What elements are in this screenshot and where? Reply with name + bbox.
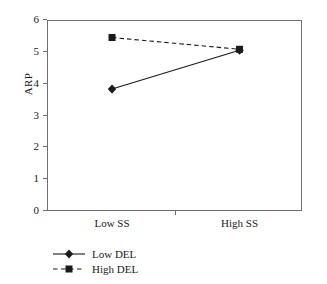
y-tick-label: 1 bbox=[34, 171, 40, 185]
y-axis-title: ARP bbox=[22, 39, 34, 129]
y-tick-label: 5 bbox=[34, 44, 40, 58]
legend-sample bbox=[52, 247, 86, 261]
y-tick-mark bbox=[43, 83, 47, 84]
diamond-marker-icon bbox=[65, 249, 73, 258]
y-tick-label: 6 bbox=[34, 12, 40, 26]
y-tick-mark bbox=[43, 115, 47, 116]
y-tick-mark bbox=[43, 19, 47, 20]
y-tick-label: 0 bbox=[34, 203, 40, 217]
square-marker-icon bbox=[66, 265, 73, 272]
y-tick-mark bbox=[43, 178, 47, 179]
y-tick-label: 4 bbox=[34, 76, 40, 90]
y-tick-label: 3 bbox=[34, 108, 40, 122]
interaction-plot-figure: ARP 0123456 Low SSHigh SS Low DELHigh DE… bbox=[0, 0, 327, 284]
legend-label: High DEL bbox=[92, 262, 138, 276]
x-tick-mark-center bbox=[175, 211, 176, 215]
y-tick-mark bbox=[43, 146, 47, 147]
x-axis: Low SSHigh SS bbox=[47, 211, 302, 241]
plot-area bbox=[47, 20, 302, 211]
y-tick-label: 2 bbox=[34, 139, 40, 153]
legend-item: High DEL bbox=[52, 261, 202, 276]
x-tick-label: High SS bbox=[190, 217, 290, 229]
y-tick-mark bbox=[43, 51, 47, 52]
legend-sample bbox=[52, 262, 86, 276]
legend: Low DELHigh DEL bbox=[52, 246, 202, 276]
x-tick-label: Low SS bbox=[62, 217, 162, 229]
legend-label: Low DEL bbox=[92, 247, 136, 261]
legend-item: Low DEL bbox=[52, 246, 202, 261]
